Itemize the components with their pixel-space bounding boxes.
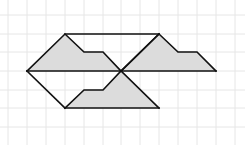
geometry-diagram (0, 0, 245, 145)
